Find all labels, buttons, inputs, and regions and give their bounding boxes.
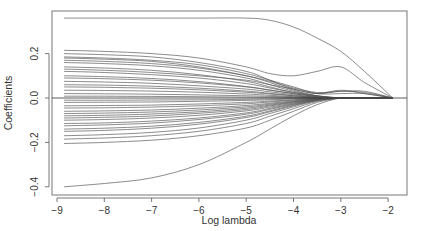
x-tick-label: −4 (288, 205, 300, 216)
coefficient-path-coef_33 (64, 98, 393, 139)
y-tick-label: −0.4 (29, 176, 40, 196)
y-tick-label: 0.0 (29, 91, 40, 105)
x-axis-title: Log lambda (202, 214, 257, 226)
y-axis-title: Coefficients (2, 76, 14, 131)
y-tick-label: −0.2 (29, 132, 40, 152)
y-axis: −0.4−0.20.00.2 (29, 46, 49, 196)
x-tick-label: −2 (382, 205, 394, 216)
x-tick-label: −9 (51, 205, 63, 216)
x-tick-label: −3 (335, 205, 347, 216)
series-lines (64, 18, 393, 187)
x-tick-label: −7 (146, 205, 158, 216)
y-tick-label: 0.2 (29, 46, 40, 60)
x-tick-label: −8 (99, 205, 111, 216)
coefficient-path-chart: −9−8−7−6−5−4−3−2 −0.4−0.20.00.2 Log lamb… (0, 0, 425, 231)
